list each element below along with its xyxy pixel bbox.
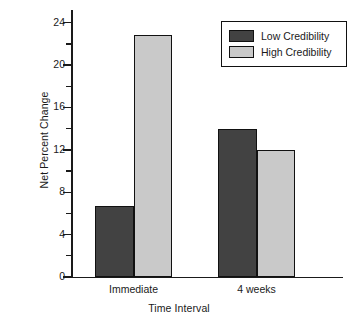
bar-chart: Net Percent Change 04812162024 Immediate… [0,0,358,325]
legend-swatch-low-credibility [229,30,254,42]
y-tick-label-12: 12 [25,144,65,155]
legend-label-high-credibility: High Credibility [261,46,332,58]
bar-4-weeks-high-credibility [257,150,296,277]
y-minor-tick-2 [66,255,71,256]
bar-4-weeks-low-credibility [218,129,257,277]
y-tick-label-0: 0 [25,271,65,282]
y-minor-tick-22 [66,43,71,44]
legend: Low Credibility High Credibility [221,21,347,67]
y-minor-tick-14 [66,128,71,129]
y-tick-label-20: 20 [25,59,65,70]
y-tick-label-4: 4 [25,229,65,240]
bar-immediate-low-credibility [95,206,134,277]
legend-item-high-credibility: High Credibility [229,44,339,59]
category-label-immediate: Immediate [65,283,202,295]
legend-item-low-credibility: Low Credibility [229,28,339,43]
y-minor-tick-10 [66,170,71,171]
y-tick-label-8: 8 [25,186,65,197]
y-minor-tick-18 [66,86,71,87]
legend-label-low-credibility: Low Credibility [261,30,329,42]
x-axis-label: Time Interval [0,302,358,314]
y-tick-label-16: 16 [25,101,65,112]
category-label-4-weeks: 4 weeks [188,283,325,295]
y-tick-label-24: 24 [25,17,65,28]
y-axis-line [71,10,73,278]
bar-immediate-high-credibility [134,35,173,277]
y-minor-tick-6 [66,213,71,214]
legend-swatch-high-credibility [229,46,254,58]
